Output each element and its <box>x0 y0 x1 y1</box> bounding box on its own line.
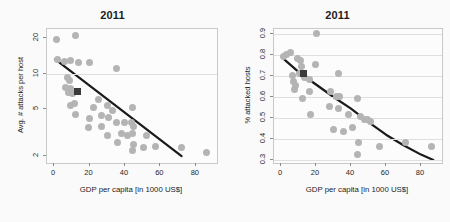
scatter-point <box>152 143 159 150</box>
scatter-point <box>355 139 362 146</box>
scatter-point <box>72 32 79 39</box>
x-tick-label: 60 <box>381 168 389 177</box>
y-tick-mark <box>270 159 273 160</box>
y-tick-mark <box>43 155 46 156</box>
x-tick-mark <box>159 163 160 166</box>
scatter-point <box>340 128 347 135</box>
y-tick-label: 10 <box>31 69 40 77</box>
y-tick-label: 0.8 <box>258 49 267 59</box>
scatter-point <box>354 95 361 102</box>
scatter-point <box>312 61 319 68</box>
x-tick-mark <box>350 163 351 166</box>
scatter-point <box>291 86 298 93</box>
scatter-point <box>335 105 342 112</box>
scatter-point <box>287 49 294 56</box>
scatter-point <box>71 100 78 107</box>
y-tick-mark <box>270 54 273 55</box>
scatter-point <box>54 56 61 63</box>
figure-root: 2011 251020020406080Avg. # attacks per h… <box>0 0 450 222</box>
gridline-y <box>274 160 442 161</box>
scatter-point <box>86 59 93 66</box>
scatter-point <box>335 70 342 77</box>
y-tick-mark <box>270 117 273 118</box>
scatter-point <box>72 111 79 118</box>
gridline-y <box>47 74 217 75</box>
scatter-point <box>105 114 112 121</box>
scatter-point <box>313 30 320 37</box>
scatter-point <box>86 115 93 122</box>
y-tick-label: 2 <box>31 153 40 157</box>
scatter-point <box>354 151 361 158</box>
y-tick-label: 0.6 <box>258 91 267 101</box>
y-tick-label: 5 <box>31 106 40 110</box>
scatter-point <box>129 147 136 154</box>
x-tick-label: 0 <box>278 168 282 177</box>
plot-area-left <box>46 28 218 164</box>
x-tick-mark <box>53 163 54 166</box>
x-tick-label: 60 <box>155 168 163 177</box>
panel-left-title: 2011 <box>0 9 225 21</box>
x-tick-label: 40 <box>120 168 128 177</box>
scatter-point <box>130 123 137 130</box>
x-axis-title: GDP per capita [in 1000 US$] <box>80 185 183 194</box>
y-tick-mark <box>270 33 273 34</box>
highlight-marker <box>300 70 307 77</box>
y-tick-label: 20 <box>31 33 40 41</box>
x-tick-mark <box>195 163 196 166</box>
scatter-point <box>336 93 343 100</box>
panel-right-title: 2011 <box>225 9 450 21</box>
scatter-point <box>376 143 383 150</box>
chart-panel-left: 2011 251020020406080Avg. # attacks per h… <box>0 0 225 222</box>
scatter-point <box>306 76 313 83</box>
chart-panel-right: 2011 0.30.40.50.60.70.80.9020406080% att… <box>225 0 450 222</box>
scatter-point <box>75 59 82 66</box>
y-tick-label: 0.3 <box>258 154 267 164</box>
x-axis-title: GDP per capita [in 1000 US$] <box>306 185 409 194</box>
x-tick-label: 20 <box>84 168 92 177</box>
scatter-point <box>203 149 210 156</box>
scatter-point <box>129 130 136 137</box>
scatter-point <box>67 57 74 64</box>
y-tick-label: 0.5 <box>258 112 267 122</box>
scatter-point <box>129 104 136 111</box>
x-tick-label: 40 <box>346 168 354 177</box>
x-tick-mark <box>385 163 386 166</box>
scatter-point <box>113 119 120 126</box>
y-tick-mark <box>270 75 273 76</box>
scatter-point <box>53 36 60 43</box>
scatter-point <box>90 104 97 111</box>
x-tick-label: 80 <box>191 168 199 177</box>
x-tick-mark <box>89 163 90 166</box>
y-tick-mark <box>43 73 46 74</box>
scatter-point <box>104 132 111 139</box>
y-axis-title: % attacked hosts <box>243 66 252 123</box>
scatter-point <box>85 124 92 131</box>
scatter-point <box>428 143 435 150</box>
scatter-point <box>109 107 116 114</box>
scatter-point <box>178 144 185 151</box>
y-tick-label: 0.7 <box>258 70 267 80</box>
scatter-point <box>98 123 105 130</box>
y-tick-mark <box>43 37 46 38</box>
y-tick-label: 0.9 <box>258 28 267 38</box>
x-tick-label: 80 <box>416 168 424 177</box>
scatter-point <box>402 139 409 146</box>
plot-area-right <box>273 28 443 164</box>
x-tick-label: 0 <box>51 168 55 177</box>
scatter-point <box>367 118 374 125</box>
y-tick-mark <box>43 108 46 109</box>
y-tick-mark <box>270 138 273 139</box>
scatter-point <box>299 95 306 102</box>
scatter-point <box>349 124 356 131</box>
y-axis-title: Avg. # attacks per host <box>16 57 25 133</box>
x-tick-mark <box>124 163 125 166</box>
x-tick-mark <box>280 163 281 166</box>
x-tick-mark <box>315 163 316 166</box>
scatter-point <box>113 65 120 72</box>
x-tick-label: 20 <box>311 168 319 177</box>
scatter-point <box>326 103 333 110</box>
gridline-y <box>274 34 442 35</box>
scatter-point <box>330 126 337 133</box>
scatter-point <box>306 88 313 95</box>
x-tick-mark <box>420 163 421 166</box>
